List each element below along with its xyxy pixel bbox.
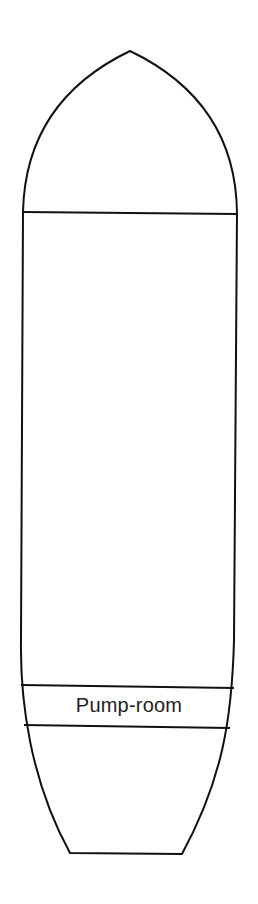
pump-room-label: Pump-room bbox=[0, 693, 258, 717]
hull-outline bbox=[21, 51, 237, 854]
ship-hull-diagram bbox=[0, 0, 258, 904]
